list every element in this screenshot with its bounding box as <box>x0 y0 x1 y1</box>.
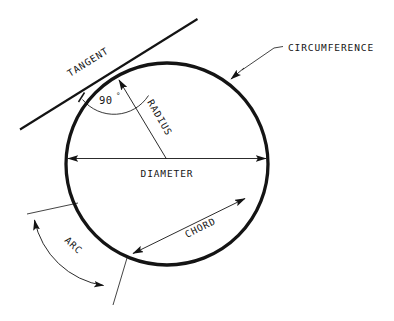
circumference-arrow <box>231 68 244 79</box>
circle-diagram-canvas: CIRCUMFERENCE TANGENT RADIUS DIAMETER CH… <box>0 0 394 321</box>
circle-parts-diagram: CIRCUMFERENCE TANGENT RADIUS DIAMETER CH… <box>0 0 394 321</box>
arc-extension-line-top <box>27 203 78 214</box>
label-circumference: CIRCUMFERENCE <box>288 42 374 53</box>
label-diameter: DIAMETER <box>141 168 194 179</box>
label-angle-value: 90 <box>99 94 113 106</box>
tangent-line <box>20 19 198 130</box>
circumference-leader-line <box>242 48 274 70</box>
label-angle-unit: ° <box>116 91 121 100</box>
circumference-leader-tick <box>274 47 283 49</box>
circle-outline <box>66 63 268 265</box>
label-arc: ARC <box>63 234 85 256</box>
arc-dimension-curve <box>35 220 104 286</box>
arc-extension-line-bottom <box>113 258 127 305</box>
label-tangent: TANGENT <box>65 45 110 79</box>
label-chord: CHORD <box>183 215 218 240</box>
